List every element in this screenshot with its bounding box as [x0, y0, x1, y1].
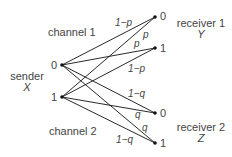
- edge-label-x0-y1: p: [133, 38, 140, 49]
- label-y0: 0: [160, 10, 166, 22]
- broadcast-channel-diagram: 0 1 0 1 0 1 channel 1 channel 2 sender X…: [0, 0, 232, 157]
- label-x0: 0: [51, 59, 57, 71]
- edge-label-x0-z1: q: [142, 122, 148, 133]
- sender-variable: X: [22, 81, 31, 93]
- edge-label-x0-y0: 1−p: [115, 17, 132, 28]
- edge-label-x1-y1: 1−p: [128, 63, 145, 74]
- edge-label-x1-z1: 1−q: [116, 134, 133, 145]
- edge-x1-z0: [62, 97, 155, 113]
- edge-x0-y0: [62, 17, 155, 65]
- label-z0: 0: [160, 107, 166, 119]
- channel-2-label: channel 2: [49, 125, 97, 137]
- node-x1: [60, 95, 64, 99]
- node-x0: [60, 63, 64, 67]
- label-x1: 1: [51, 91, 57, 103]
- receiver-1-variable: Y: [197, 28, 205, 40]
- edge-label-x1-z0: q: [135, 109, 141, 120]
- label-z1: 1: [160, 137, 166, 149]
- node-y0: [153, 15, 157, 19]
- label-y1: 1: [160, 42, 166, 54]
- edge-label-x0-z0: 1−q: [128, 88, 145, 99]
- node-y1: [153, 46, 157, 50]
- channel-1-label: channel 1: [48, 26, 96, 38]
- receiver-2-variable: Z: [197, 132, 206, 144]
- node-z1: [153, 141, 157, 145]
- edge-label-x1-y0: p: [142, 29, 149, 40]
- node-z0: [153, 111, 157, 115]
